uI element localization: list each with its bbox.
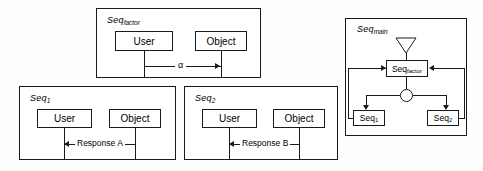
message-label-alpha: α <box>175 60 186 70</box>
panel-seq-factor-label: Seqfactor <box>107 15 140 25</box>
lifeline-object <box>221 51 222 78</box>
panel-seq-factor: Seqfactor User Object α <box>96 8 261 78</box>
actor-box-user-label: User <box>219 113 240 124</box>
flow-arrowhead-feedback2 <box>429 65 434 71</box>
message-arrowhead-response-b <box>229 141 234 147</box>
actor-box-object-label: Object <box>285 113 314 124</box>
message-arrowhead-response-a <box>64 141 69 147</box>
message-arrowhead-alpha <box>215 63 220 69</box>
actor-box-object: Object <box>195 31 247 51</box>
flow-line-feedback1-left <box>348 68 349 118</box>
actor-box-object: Object <box>109 109 161 128</box>
lifeline-object <box>135 128 136 159</box>
flow-node-seq-2-sub: 2 <box>449 117 452 123</box>
actor-box-object-label: Object <box>207 36 236 47</box>
actor-box-user-label: User <box>133 36 154 47</box>
flow-node-seq-2: Seq2 <box>427 110 459 126</box>
flow-node-seq-1: Seq1 <box>353 110 385 126</box>
panel-seq-1: Seq1 User Object Response A <box>19 86 176 160</box>
flow-line-junction-to-branch1-h <box>366 95 400 96</box>
flow-arrowhead-feedback1 <box>381 65 386 71</box>
junction-circle-icon <box>400 89 413 102</box>
panel-seq-1-label-sub: 1 <box>47 97 51 104</box>
panel-seq-main-label-sub: main <box>374 28 388 35</box>
flow-node-seq-1-sub: 1 <box>375 117 378 123</box>
panel-seq-1-label-base: Seq <box>30 93 47 103</box>
flow-line-start-to-factor <box>406 53 407 60</box>
flow-line-junction-to-branch2-h <box>413 95 447 96</box>
flow-line-feedback2-right <box>464 68 465 118</box>
panel-seq-2-label-sub: 2 <box>212 97 216 104</box>
uml-sequence-figure: Seqfactor User Object α Seq1 User Object… <box>0 0 483 171</box>
flow-node-seq-factor-base: Seq <box>392 64 407 74</box>
panel-seq-main: Seqmain Seqfactor Seq1 Seq2 <box>345 18 467 136</box>
message-label-response-b: Response B <box>240 138 290 148</box>
panel-seq-1-label: Seq1 <box>30 93 50 103</box>
panel-seq-factor-label-base: Seq <box>107 15 124 25</box>
flow-line-feedback2-top <box>433 68 464 69</box>
actor-box-user: User <box>37 109 92 128</box>
actor-box-user: User <box>202 109 257 128</box>
message-label-response-a: Response A <box>75 138 125 148</box>
actor-box-user-label: User <box>54 113 75 124</box>
flow-line-factor-to-junction <box>406 77 407 89</box>
flow-node-seq-1-base: Seq <box>360 113 375 123</box>
lifeline-object <box>299 128 300 159</box>
panel-seq-2: Seq2 User Object Response B <box>184 86 338 160</box>
panel-seq-main-label-base: Seq <box>357 24 374 34</box>
actor-box-object: Object <box>273 109 325 128</box>
panel-seq-2-label-base: Seq <box>195 93 212 103</box>
start-triangle-icon <box>395 37 417 54</box>
flow-line-feedback1-bottom <box>348 118 353 119</box>
flow-node-seq-factor-sub: factor <box>407 68 422 74</box>
actor-box-object-label: Object <box>121 113 150 124</box>
flow-node-seq-2-base: Seq <box>434 113 449 123</box>
flow-node-seq-factor: Seqfactor <box>386 60 428 77</box>
panel-seq-2-label: Seq2 <box>195 93 215 103</box>
actor-box-user: User <box>115 31 173 51</box>
panel-seq-main-label: Seqmain <box>357 24 388 34</box>
lifeline-user <box>144 51 145 78</box>
panel-seq-factor-label-sub: factor <box>124 19 140 26</box>
flow-line-feedback2-bottom <box>459 118 465 119</box>
